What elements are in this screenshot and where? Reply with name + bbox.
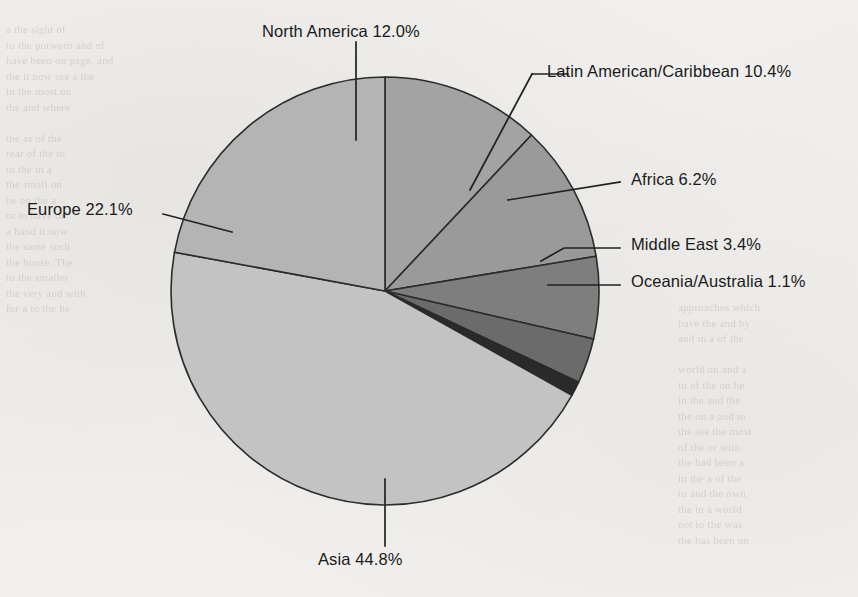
pie-label-oceania: Oceania/Australia 1.1% [631,272,806,291]
pie-label-north-america: North America 12.0% [262,22,420,41]
pie-label-europe: Europe 22.1% [27,200,133,219]
scanned-page-background: a the sight of to the porwern and of hav… [0,0,858,597]
pie-label-latin-america: Latin American/Caribbean 10.4% [547,62,791,81]
pie-label-africa: Africa 6.2% [631,170,716,189]
pie-slices-group [171,77,599,505]
pie-label-asia: Asia 44.8% [318,550,402,569]
pie-chart [0,0,858,597]
pie-label-middle-east: Middle East 3.4% [631,235,761,254]
